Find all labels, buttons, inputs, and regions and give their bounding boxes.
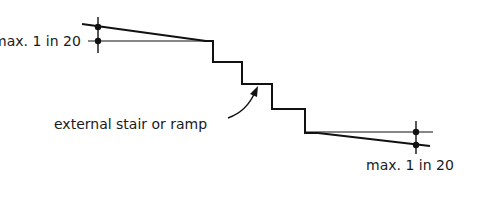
- callout-arrow-icon: [228, 86, 258, 118]
- top-gradient-label: max. 1 in 20: [0, 33, 81, 49]
- bottom-gradient-label: max. 1 in 20: [366, 157, 454, 173]
- top-gradient-marker: [95, 17, 101, 53]
- stair-diagram: max. 1 in 20 external stair or ramp max.…: [0, 0, 489, 199]
- bottom-gradient-marker: [413, 121, 419, 154]
- stair-flight: [204, 41, 318, 133]
- top-landing: [82, 24, 213, 41]
- stair-callout-label: external stair or ramp: [54, 116, 207, 132]
